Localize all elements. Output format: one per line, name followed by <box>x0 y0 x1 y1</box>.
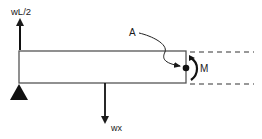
beam-segment <box>19 51 186 83</box>
free-body-diagram: wL/2 wx A M <box>0 0 262 139</box>
pin-support-icon <box>10 84 28 100</box>
moment-arc-icon <box>191 58 197 80</box>
reaction-force-label: wL/2 <box>10 6 31 17</box>
point-a-dot <box>183 65 190 72</box>
load-resultant-label: wx <box>110 123 122 133</box>
point-a-leader-arrow <box>139 33 180 66</box>
point-a-label: A <box>129 27 136 38</box>
moment-label: M <box>200 63 208 74</box>
